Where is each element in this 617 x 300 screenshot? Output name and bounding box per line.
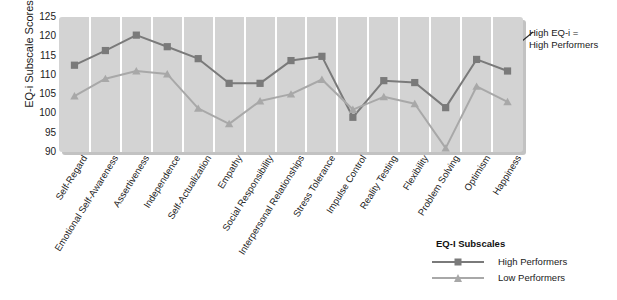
x-axis-tick-label: Empathy [215, 153, 244, 191]
triangle-marker-icon [454, 274, 462, 282]
data-point-marker [473, 56, 480, 63]
data-point-marker [164, 43, 171, 50]
data-point-marker [380, 77, 387, 84]
y-axis-tick: 95 [30, 128, 56, 138]
data-point-marker [504, 67, 511, 74]
y-axis-tick-labels: 9095100105110115120125 [30, 12, 56, 154]
chart-figure: EQ-i Subscale Scores 9095100105110115120… [0, 0, 617, 300]
chart-legend: EQ-I Subscales High PerformersLow Perfor… [432, 238, 610, 286]
data-point-marker [226, 80, 233, 87]
data-point-marker [472, 82, 480, 89]
y-axis-tick: 90 [30, 147, 56, 157]
data-point-marker [503, 98, 511, 105]
legend-entries: High PerformersLow Performers [432, 254, 610, 285]
legend-swatch [432, 271, 484, 284]
data-point-marker [442, 104, 449, 111]
data-point-marker [195, 55, 202, 62]
x-axis-tick-label: Happiness [490, 153, 523, 197]
x-axis-tick-label: Optimism [461, 153, 492, 193]
legend-entry[interactable]: High Performers [432, 254, 610, 269]
data-point-marker [71, 62, 78, 69]
x-axis-tick-labels: Self-RegardEmotional Self-AwarenessAsser… [59, 153, 523, 248]
y-axis-tick: 100 [30, 108, 56, 118]
y-axis-tick: 110 [30, 70, 56, 80]
y-axis-tick: 115 [30, 51, 56, 61]
plot-area [59, 17, 523, 152]
data-point-marker [318, 75, 326, 82]
chart-annotation: High EQ-i = High Performers [529, 27, 615, 51]
legend-title: EQ-I Subscales [436, 238, 610, 249]
y-axis-tick: 120 [30, 31, 56, 41]
annotation-line-2: High Performers [529, 39, 615, 51]
square-marker-icon [455, 258, 462, 265]
data-point-marker [318, 53, 325, 60]
legend-entry[interactable]: Low Performers [432, 270, 610, 285]
data-point-marker [256, 80, 263, 87]
annotation-line-1: High EQ-i = [529, 27, 615, 39]
legend-label: High Performers [498, 256, 567, 267]
data-point-marker [70, 92, 78, 99]
legend-label: Low Performers [498, 272, 565, 283]
chart-series-canvas [59, 17, 523, 152]
data-point-marker [411, 79, 418, 86]
data-point-marker [102, 47, 109, 54]
x-axis-tick-label: Flexibility [400, 153, 430, 192]
y-axis-tick: 105 [30, 89, 56, 99]
y-axis-tick: 125 [30, 12, 56, 22]
data-point-marker [133, 32, 140, 39]
legend-swatch [432, 255, 484, 268]
data-point-marker [287, 57, 294, 64]
data-point-marker [349, 114, 356, 121]
